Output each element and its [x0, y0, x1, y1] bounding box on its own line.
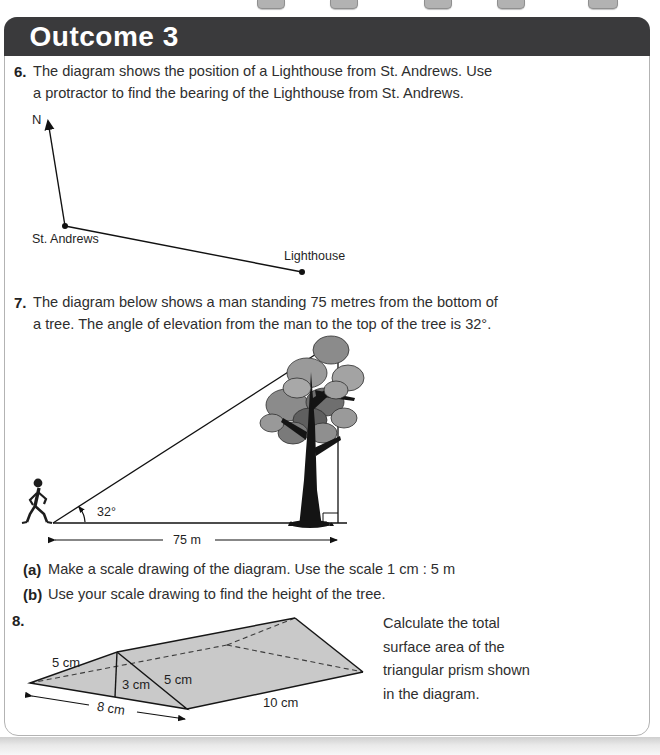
man-figure — [22, 479, 52, 523]
binder-tab — [588, 0, 618, 9]
binder-tab — [424, 0, 452, 9]
q8-number: 8. — [12, 612, 25, 629]
textbook-page: Outcome 3 6. The diagram shows the posit… — [0, 0, 660, 755]
binder-tab — [330, 0, 358, 9]
q7b-label: (b) — [23, 586, 42, 603]
north-label: N — [32, 112, 41, 127]
angle-arc-arrow — [79, 507, 85, 522]
elevation-diagram: 32° — [25, 330, 420, 560]
length-label: 10 cm — [263, 695, 298, 710]
q7-number: 7. — [14, 294, 27, 311]
binder-tab — [497, 0, 525, 9]
q8-prompt-line: in the diagram. — [383, 683, 530, 707]
q8-prompt-line: Calculate the total — [383, 612, 530, 636]
base-label: 8 cm — [96, 699, 126, 718]
q6-text-line2: a protractor to find the bearing of the … — [33, 85, 464, 101]
bearing-line — [65, 226, 302, 272]
slant-right-label: 5 cm — [164, 672, 192, 687]
base-arrow-left — [32, 696, 89, 705]
distance-label: 75 m — [173, 533, 201, 547]
angle-label: 32° — [97, 505, 116, 519]
north-arrow — [48, 121, 65, 226]
q8-prompt: Calculate the total surface area of the … — [383, 612, 530, 706]
q6-number: 6. — [14, 63, 27, 80]
height-label: 3 cm — [122, 677, 150, 692]
q6-text-line1: The diagram shows the position of a Ligh… — [33, 63, 492, 79]
lighthouse-point — [299, 269, 305, 275]
outcome-header-bar: Outcome 3 — [4, 17, 650, 56]
tree-illustration — [260, 336, 364, 528]
q7a-label: (a) — [23, 561, 41, 578]
q8-prompt-line: triangular prism shown — [383, 659, 530, 683]
st-andrews-label: St. Andrews — [32, 232, 99, 246]
page-title: Outcome 3 — [30, 21, 179, 53]
slant-left-label: 5 cm — [52, 655, 80, 670]
q7a-text: Make a scale drawing of the diagram. Use… — [48, 561, 455, 577]
st-andrews-point — [62, 223, 68, 229]
q7b-text: Use your scale drawing to find the heigh… — [48, 586, 385, 602]
bearing-diagram: N St. Andrews Lighthouse — [20, 105, 360, 285]
prism-diagram: 5 cm 3 cm 5 cm 8 cm 10 cm — [25, 615, 375, 740]
q8-prompt-line: surface area of the — [383, 636, 530, 660]
base-arrow-right — [137, 712, 185, 719]
q7-text-line1: The diagram below shows a man standing 7… — [33, 294, 498, 310]
lighthouse-label: Lighthouse — [284, 249, 345, 263]
binder-tab — [257, 0, 285, 9]
